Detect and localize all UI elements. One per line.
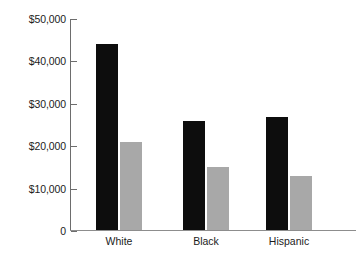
y-axis-tick-label: $20,000	[4, 141, 66, 152]
x-axis-category-label: White	[69, 236, 169, 247]
bar	[96, 44, 118, 231]
y-axis-tick-label: $50,000	[4, 14, 66, 25]
y-axis-tick-labels: $50,000$40,000$30,000$20,000$10,0000	[0, 0, 66, 256]
plot-area	[70, 19, 356, 231]
bar	[183, 121, 205, 231]
y-axis-tick-label: 0	[4, 226, 66, 237]
y-axis-tick-mark	[71, 19, 77, 20]
y-axis-tick-mark	[71, 104, 77, 105]
bar	[120, 142, 142, 231]
bar	[290, 176, 312, 231]
y-axis-tick-label: $10,000	[4, 184, 66, 195]
x-axis-category-label: Hispanic	[239, 236, 339, 247]
y-axis-tick-label: $30,000	[4, 99, 66, 110]
bar-chart: $50,000$40,000$30,000$20,000$10,0000 Whi…	[0, 0, 358, 256]
y-axis-tick-mark	[71, 146, 77, 147]
y-axis-tick-mark	[71, 61, 77, 62]
bar	[266, 117, 288, 231]
x-axis-baseline	[70, 230, 356, 231]
bar	[207, 167, 229, 231]
y-axis-tick-mark	[71, 231, 77, 232]
y-axis-tick-label: $40,000	[4, 56, 66, 67]
y-axis-tick-mark	[71, 189, 77, 190]
